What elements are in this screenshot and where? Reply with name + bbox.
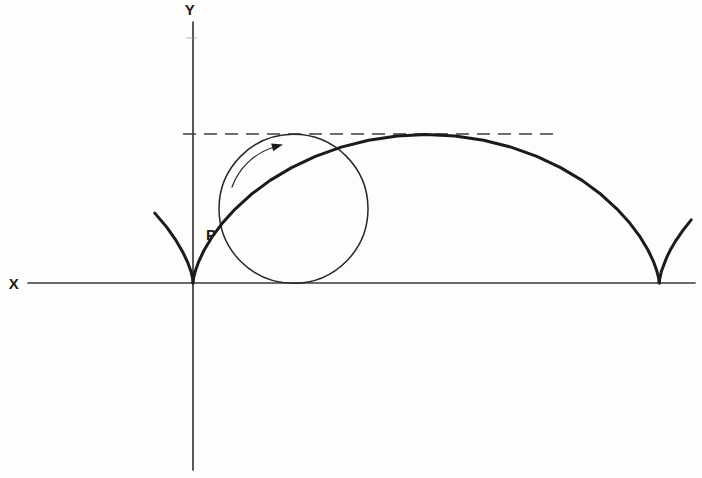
point-p-label: P [206, 226, 216, 243]
cycloid-left-branch [155, 213, 193, 283]
diagram-canvas: Y X P [0, 0, 702, 478]
x-axis-label: X [9, 275, 20, 292]
cycloid-right-branch [659, 220, 691, 283]
rolling-circle [219, 134, 368, 283]
cycloid-figure: Y X P [0, 0, 702, 478]
cycloid-main-arch [193, 135, 659, 283]
y-axis-label: Y [185, 1, 196, 18]
rotation-arrow [232, 148, 273, 188]
rotation-arrowhead-icon [271, 144, 283, 152]
